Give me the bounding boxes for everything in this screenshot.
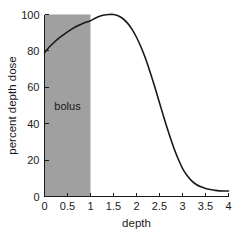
x-tick-label: 2.5 <box>152 200 167 212</box>
x-axis-title: depth <box>122 217 151 229</box>
y-tick-label: 20 <box>27 154 39 166</box>
bolus-region-label: bolus <box>54 100 81 112</box>
x-tick-label: 1.5 <box>106 200 121 212</box>
y-tick-label: 80 <box>27 45 39 57</box>
x-tick-label: 2 <box>133 200 139 212</box>
x-tick-label: 3 <box>179 200 185 212</box>
y-tick-label: 60 <box>27 81 39 93</box>
depth-dose-chart: bolus 00.511.522.533.54 020406080100 dep… <box>0 0 238 235</box>
y-tick-label: 100 <box>21 9 39 21</box>
y-tick-label: 40 <box>27 118 39 130</box>
y-tick-label: 0 <box>33 191 39 203</box>
y-axis-title: percent depth dose <box>6 56 18 154</box>
x-tick-label: 0.5 <box>60 200 75 212</box>
x-tick-label: 3.5 <box>198 200 213 212</box>
x-tick-label: 0 <box>41 200 47 212</box>
x-tick-label: 1 <box>87 200 93 212</box>
x-tick-label: 4 <box>225 200 231 212</box>
chart-container: bolus 00.511.522.533.54 020406080100 dep… <box>0 0 238 235</box>
